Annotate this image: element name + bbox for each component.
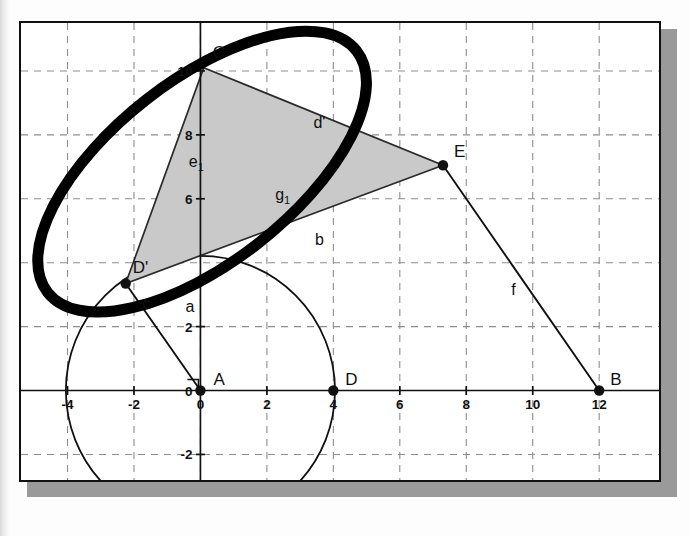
- x-tick-label: 0: [197, 397, 205, 412]
- x-tick-label: 4: [330, 397, 338, 412]
- point-marker-A[interactable]: [195, 385, 205, 395]
- x-tick-label: 6: [396, 397, 404, 412]
- x-tick-label: 2: [263, 397, 271, 412]
- point-marker-B[interactable]: [594, 385, 604, 395]
- point-label-C: C: [213, 43, 225, 62]
- point-label-A: A: [213, 370, 225, 389]
- y-tick-label: 6: [185, 192, 193, 207]
- x-tick-label: 10: [525, 397, 540, 412]
- segment-label-c: c: [142, 295, 150, 312]
- point-marker-E[interactable]: [438, 160, 448, 170]
- segment-label-f: f: [511, 281, 516, 298]
- segment-label-d': d': [313, 114, 325, 131]
- x-axis-tick-labels: -4-2024681012: [62, 397, 607, 412]
- y-tick-label: 0: [185, 384, 193, 399]
- x-tick-label: -4: [62, 397, 74, 412]
- point-label-B: B: [610, 370, 621, 389]
- y-tick-label: 8: [185, 128, 193, 143]
- x-tick-label: -2: [128, 397, 140, 412]
- geometry-plot[interactable]: -4-2024681012 108620-2 bfcad'e1g1 ADBECD…: [21, 23, 659, 480]
- point-marker-D[interactable]: [328, 385, 338, 395]
- point-label-D: D: [345, 370, 357, 389]
- point-label-Dp: D': [133, 258, 149, 277]
- x-tick-label: 8: [463, 397, 471, 412]
- segment-label-a: a: [185, 298, 194, 315]
- coordinate-axes: [21, 23, 659, 480]
- y-tick-label: 10: [177, 64, 192, 79]
- point-label-E: E: [454, 142, 465, 161]
- scan-edge-artifact: [0, 0, 9, 536]
- x-tick-label: 12: [592, 397, 607, 412]
- triangle-cde: [126, 68, 443, 284]
- point-marker-Dp[interactable]: [120, 278, 130, 288]
- y-tick-label: 2: [185, 320, 193, 335]
- grid-lines: [21, 23, 659, 480]
- y-tick-label: -2: [180, 447, 192, 462]
- figure-frame: -4-2024681012 108620-2 bfcad'e1g1 ADBECD…: [19, 21, 661, 482]
- segment-label-b: b: [315, 231, 324, 248]
